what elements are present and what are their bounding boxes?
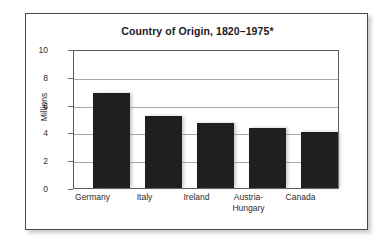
chart-title: Country of Origin, 1820–1975* — [26, 25, 369, 37]
y-tick-label-8: 8 — [22, 73, 48, 83]
y-tick-mark-0 — [68, 189, 73, 190]
chart-card: Country of Origin, 1820–1975* Millions 1… — [25, 13, 368, 230]
y-tick-label-6: 6 — [22, 101, 48, 111]
bar-germany — [93, 93, 130, 188]
x-tick-label-canada: Canada — [270, 192, 331, 203]
gridline-8 — [74, 79, 338, 80]
y-tick-label-0: 0 — [22, 184, 48, 194]
y-tick-label-2: 2 — [22, 156, 48, 166]
bar-italy — [145, 116, 182, 188]
bar-ireland — [197, 123, 234, 188]
y-tick-label-10: 10 — [22, 45, 48, 55]
bar-austria-hungary — [249, 128, 286, 188]
chart-figure: Country of Origin, 1820–1975* Millions 1… — [0, 0, 388, 248]
bar-canada — [301, 132, 338, 188]
y-tick-label-4: 4 — [22, 128, 48, 138]
plot-area — [73, 50, 339, 189]
